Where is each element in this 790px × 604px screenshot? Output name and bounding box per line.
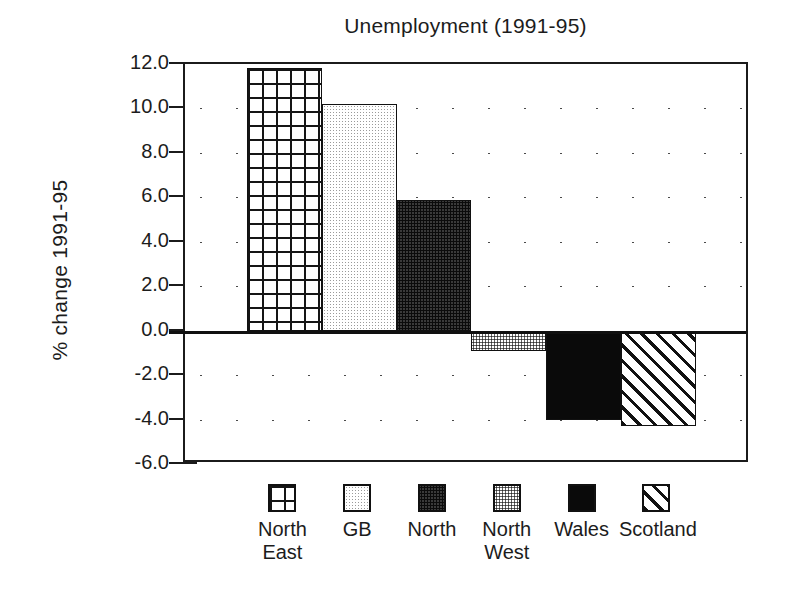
y-tick-label: -6.0 bbox=[105, 452, 169, 472]
legend-item-north[interactable]: North bbox=[395, 484, 470, 541]
y-tick-label: 8.0 bbox=[105, 141, 169, 161]
y-tick-label: -4.0 bbox=[105, 408, 169, 428]
legend-item-label: North East bbox=[245, 518, 320, 564]
legend-item-north-west[interactable]: North West bbox=[469, 484, 544, 564]
y-tick-label: 2.0 bbox=[105, 274, 169, 294]
y-tick-label: -2.0 bbox=[105, 363, 169, 383]
legend-item-scotland[interactable]: Scotland bbox=[619, 484, 694, 541]
crosshatch-grid-swatch bbox=[268, 484, 296, 512]
solid-black-swatch bbox=[568, 484, 596, 512]
chart-legend: North EastGBNorthNorth WestWalesScotland bbox=[183, 484, 748, 594]
bar-north-west bbox=[471, 331, 546, 351]
legend-item-label: North West bbox=[469, 518, 544, 564]
legend-item-gb[interactable]: GB bbox=[320, 484, 395, 541]
plot-area bbox=[183, 62, 748, 462]
y-tick-label: 4.0 bbox=[105, 230, 169, 250]
bar-north bbox=[397, 200, 472, 331]
diagonal-hatch-swatch bbox=[642, 484, 670, 512]
legend-item-north-east[interactable]: North East bbox=[245, 484, 320, 564]
legend-item-label: North bbox=[395, 518, 470, 541]
chart-title: Unemployment (1991-95) bbox=[183, 14, 748, 38]
plot-inner bbox=[185, 64, 746, 460]
legend-item-label: Scotland bbox=[619, 518, 694, 541]
bar-north-east bbox=[247, 68, 322, 330]
dark-stipple-swatch bbox=[418, 484, 446, 512]
legend-item-wales[interactable]: Wales bbox=[544, 484, 619, 541]
legend-item-label: Wales bbox=[544, 518, 619, 541]
legend-item-label: GB bbox=[320, 518, 395, 541]
y-tick-label: 0.0 bbox=[105, 319, 169, 339]
y-axis-tick-labels: 12.010.08.06.04.02.00.0-2.0-4.0-6.0 bbox=[105, 62, 169, 462]
bar-wales bbox=[546, 331, 621, 420]
light-stipple-swatch bbox=[343, 484, 371, 512]
medium-stipple-swatch bbox=[493, 484, 521, 512]
y-tick-label: 10.0 bbox=[105, 96, 169, 116]
y-tick-mark bbox=[169, 462, 197, 464]
unemployment-bar-chart: Unemployment (1991-95) % change 1991-95 … bbox=[0, 0, 790, 604]
bars-layer bbox=[185, 64, 746, 460]
y-tick-label: 12.0 bbox=[105, 52, 169, 72]
y-tick-label: 6.0 bbox=[105, 185, 169, 205]
zero-baseline bbox=[169, 331, 746, 334]
y-axis-title: % change 1991-95 bbox=[48, 105, 72, 435]
bar-gb bbox=[322, 104, 397, 331]
bar-scotland bbox=[621, 331, 696, 427]
